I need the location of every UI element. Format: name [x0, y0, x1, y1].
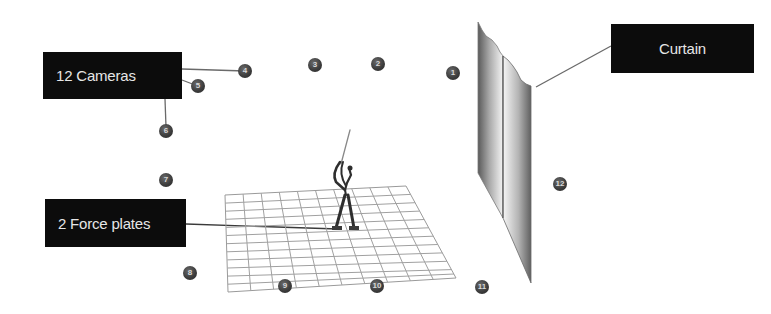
bat-or-arm-extension — [341, 130, 350, 164]
force-plate-left — [332, 226, 342, 230]
camera-marker-number: 11 — [478, 283, 486, 291]
leader-line-curtain — [536, 46, 611, 87]
camera-marker-number: 7 — [164, 176, 168, 184]
camera-marker-number: 6 — [164, 127, 168, 135]
leader-line-camera-4 — [182, 69, 245, 71]
camera-marker-1: 1 — [446, 66, 460, 80]
curtain-panel — [478, 22, 531, 283]
camera-marker-11: 11 — [475, 280, 489, 294]
camera-marker-2: 2 — [371, 57, 385, 71]
camera-marker-8: 8 — [183, 266, 197, 280]
force-plates-label: 2 Force plates — [45, 199, 186, 247]
curtain-label: Curtain — [611, 24, 754, 73]
camera-marker-number: 9 — [283, 282, 287, 290]
camera-marker-number: 4 — [243, 67, 247, 75]
force-plates-label-text: 2 Force plates — [58, 215, 150, 232]
camera-marker-6: 6 — [159, 124, 173, 138]
cameras-label: 12 Cameras — [43, 52, 182, 99]
camera-marker-number: 1 — [451, 69, 455, 77]
camera-marker-number: 8 — [188, 269, 192, 277]
camera-marker-5: 5 — [191, 79, 205, 93]
cameras-label-text: 12 Cameras — [56, 67, 136, 84]
floor-grid — [225, 186, 456, 292]
leader-line-force-plates — [186, 224, 338, 229]
leader-line-camera-6 — [165, 99, 166, 127]
force-plate-right — [349, 226, 359, 230]
camera-marker-10: 10 — [370, 279, 384, 293]
camera-marker-9: 9 — [278, 279, 292, 293]
camera-marker-number: 3 — [313, 61, 317, 69]
camera-marker-number: 12 — [556, 180, 565, 188]
camera-marker-12: 12 — [553, 177, 567, 191]
camera-marker-number: 2 — [376, 60, 380, 68]
motion-capture-setup-diagram: 12 Cameras Curtain 2 Force plates 1 2 3 … — [0, 0, 771, 314]
camera-marker-number: 5 — [196, 82, 200, 90]
camera-marker-3: 3 — [308, 58, 322, 72]
curtain-label-text: Curtain — [659, 40, 706, 57]
camera-marker-number: 10 — [373, 282, 382, 290]
leader-lines — [165, 46, 611, 229]
camera-marker-4: 4 — [238, 64, 252, 78]
camera-marker-7: 7 — [159, 173, 173, 187]
